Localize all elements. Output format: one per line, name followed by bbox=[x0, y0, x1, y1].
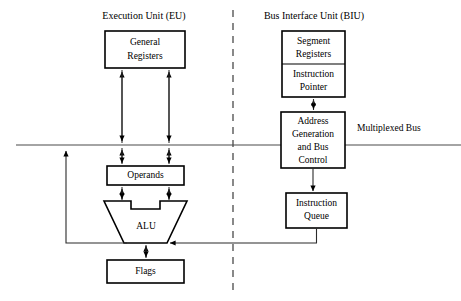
address-generation-label-line1: Address bbox=[297, 116, 328, 126]
general-registers-label-line2: Registers bbox=[127, 51, 163, 61]
flags-label: Flags bbox=[135, 266, 156, 276]
instruction-queue-label-line2: Queue bbox=[304, 211, 329, 221]
bus-interface-unit-title: Bus Interface Unit (BIU) bbox=[264, 10, 364, 22]
general-registers-label-line1: General bbox=[130, 37, 160, 47]
diagram-canvas: Execution Unit (EU) Bus Interface Unit (… bbox=[0, 0, 461, 301]
instruction-pointer-label-line1: Instruction bbox=[293, 69, 334, 79]
instruction-pointer-label-line2: Pointer bbox=[300, 82, 328, 92]
address-generation-label-line2: Generation bbox=[292, 129, 334, 139]
multiplexed-bus-label: Multiplexed Bus bbox=[357, 123, 421, 133]
operands-label: Operands bbox=[127, 170, 164, 180]
cpu-architecture-diagram: Execution Unit (EU) Bus Interface Unit (… bbox=[0, 0, 461, 301]
instruction-queue-label-line1: Instruction bbox=[296, 198, 337, 208]
address-generation-label-line4: Control bbox=[298, 155, 327, 165]
segment-registers-label-line2: Registers bbox=[296, 49, 332, 59]
address-generation-label-line3: and Bus bbox=[298, 142, 329, 152]
execution-unit-title: Execution Unit (EU) bbox=[102, 10, 185, 22]
segment-registers-label-line1: Segment bbox=[297, 36, 331, 46]
queue-to-alu-path bbox=[170, 228, 317, 243]
alu-label: ALU bbox=[136, 221, 156, 231]
